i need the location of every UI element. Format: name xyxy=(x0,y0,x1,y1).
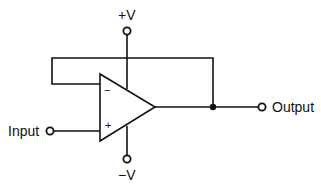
negative-supply-label: −V xyxy=(118,167,136,183)
output-terminal xyxy=(258,103,265,110)
voltage-follower-diagram: +V −V Input Output − + xyxy=(0,0,321,187)
input-label: Input xyxy=(8,123,39,139)
output-label: Output xyxy=(272,99,314,115)
junction-dot xyxy=(210,104,216,110)
input-terminal xyxy=(46,127,53,134)
feedback-wire xyxy=(52,58,213,107)
negative-supply-terminal xyxy=(123,155,130,162)
non-inverting-input-sign: + xyxy=(105,119,111,131)
inverting-input-sign: − xyxy=(104,84,110,96)
positive-supply-terminal xyxy=(123,27,130,34)
positive-supply-label: +V xyxy=(118,7,136,23)
